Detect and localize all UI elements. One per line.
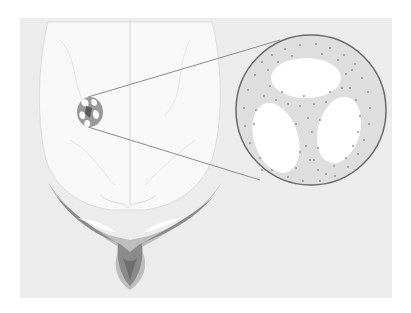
- brain-outline: [39, 20, 220, 210]
- magnified-inset-circle: [236, 35, 386, 185]
- lesion-spot: [77, 97, 103, 127]
- brain-illustration: [0, 0, 411, 313]
